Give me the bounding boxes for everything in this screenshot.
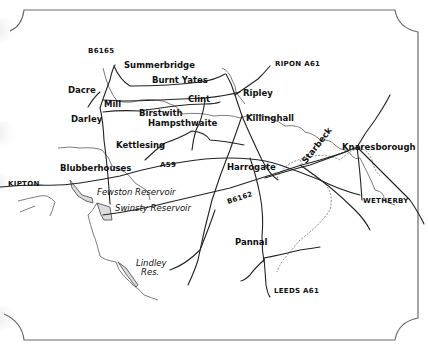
road-leeds-a61 <box>264 258 270 297</box>
label-b6165: B6165 <box>88 47 114 55</box>
label-harrogate: Harrogate <box>227 162 276 172</box>
label-ripon-a61: RIPON A61 <box>275 60 320 68</box>
road-pannal-west <box>241 260 264 281</box>
label-summerbridge: Summerbridge <box>124 60 195 70</box>
label-blubberhouses: Blubberhouses <box>60 163 131 173</box>
label-knaresborough: Knaresborough <box>342 142 416 152</box>
river-washburn-lower <box>88 203 158 300</box>
label-kettlesing: Kettlesing <box>116 140 165 150</box>
railway-harrogate-knaresborough <box>277 148 380 178</box>
label-hampsthwaite: Hampsthwaite <box>148 118 218 128</box>
label-swinsty-reservoir: Swinsty Reservoir <box>115 203 191 213</box>
road-ripley-west <box>103 92 240 101</box>
label-darley: Darley <box>71 114 103 124</box>
label-b6162: B6162 <box>226 190 254 206</box>
swinsty-reservoir-shape <box>97 203 112 220</box>
label-burnt-yates: Burnt Yates <box>152 75 208 85</box>
label-pannal: Pannal <box>235 237 268 247</box>
label-mill: Mill <box>104 99 121 109</box>
lindley-reservoir-shape <box>118 262 138 287</box>
label-ripley: Ripley <box>243 88 273 98</box>
place-labels: B6165 Summerbridge Burnt Yates RIPON A61… <box>8 47 416 295</box>
road-lindley-ridge <box>170 210 215 270</box>
road-knaresborough-wetherby <box>357 147 424 224</box>
river-west <box>18 196 55 216</box>
river-nidd-upper <box>222 68 245 104</box>
label-wetherby: WETHERBY <box>363 197 409 205</box>
label-clint: Clint <box>188 94 210 104</box>
road-knaresborough-north <box>357 95 390 147</box>
label-skipton: KIPTON <box>8 180 40 188</box>
road-pannal-east <box>264 247 320 258</box>
label-birstwith: Birstwith <box>139 108 183 118</box>
road-b6165 <box>100 65 115 204</box>
label-killinghall: Killinghall <box>246 113 294 123</box>
label-fewston-reservoir: Fewston Reservoir <box>97 187 176 197</box>
page-shading <box>0 18 22 330</box>
label-a59: A59 <box>160 161 176 169</box>
map: B6165 Summerbridge Burnt Yates RIPON A61… <box>0 0 428 350</box>
label-lindley-res: Res. <box>141 267 159 277</box>
label-dacre: Dacre <box>68 85 96 95</box>
label-leeds-a61: LEEDS A61 <box>274 287 319 295</box>
river-southwest <box>20 206 35 212</box>
roads <box>0 65 424 297</box>
road-knaresborough-south <box>357 147 362 200</box>
map-frame <box>4 10 418 340</box>
railway-south <box>277 160 331 272</box>
